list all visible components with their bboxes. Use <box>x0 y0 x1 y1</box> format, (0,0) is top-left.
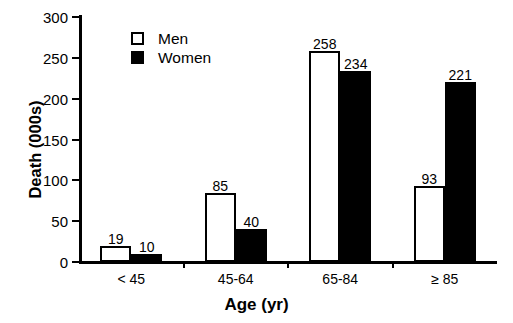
y-tick-mark <box>72 98 79 100</box>
bar-value-label: 93 <box>421 172 437 186</box>
bar-women: 221 <box>445 82 476 262</box>
y-tick-mark <box>72 179 79 181</box>
legend-swatch-women-icon <box>131 51 144 64</box>
y-tick-label: 300 <box>43 10 68 25</box>
y-tick-label: 0 <box>60 255 68 270</box>
bar-value-label: 234 <box>344 57 367 71</box>
y-tick-mark <box>72 139 79 141</box>
y-tick-label: 100 <box>43 173 68 188</box>
y-tick-label: 50 <box>51 214 68 229</box>
y-tick-mark <box>72 261 79 263</box>
x-tick-label: < 45 <box>117 271 145 287</box>
bar-men: 19 <box>100 246 131 262</box>
y-tick-label: 250 <box>43 50 68 65</box>
bar-chart-figure: Death (000s) 0501001502002503001910< 458… <box>0 0 513 323</box>
x-tick-mark <box>287 262 289 268</box>
bar-value-label: 10 <box>139 240 155 254</box>
legend-label-women: Women <box>158 50 211 66</box>
bar-men: 85 <box>205 193 236 262</box>
x-axis-title: Age (yr) <box>0 295 513 315</box>
bar-women: 40 <box>236 229 267 262</box>
bar-men: 258 <box>309 51 340 262</box>
bar-women: 234 <box>340 71 371 262</box>
x-tick-mark <box>183 262 185 268</box>
legend-item-women: Women <box>131 48 211 67</box>
y-axis-title: Death (000s) <box>26 65 45 235</box>
y-tick-mark <box>72 220 79 222</box>
bar-value-label: 221 <box>449 68 472 82</box>
legend: Men Women <box>131 29 211 67</box>
x-tick-label: 45-64 <box>218 271 254 287</box>
legend-item-men: Men <box>131 29 211 48</box>
legend-label-men: Men <box>158 31 188 47</box>
y-tick-label: 200 <box>43 91 68 106</box>
bar-men: 93 <box>414 186 445 262</box>
x-tick-mark <box>392 262 394 268</box>
bar-women: 10 <box>131 254 162 262</box>
bar-value-label: 40 <box>243 215 259 229</box>
y-tick-label: 150 <box>43 132 68 147</box>
x-tick-label: ≥ 85 <box>431 271 458 287</box>
y-tick-mark <box>72 57 79 59</box>
x-tick-label: 65-84 <box>322 271 358 287</box>
bar-value-label: 258 <box>313 37 336 51</box>
bar-value-label: 19 <box>108 232 124 246</box>
y-tick-mark <box>72 16 79 18</box>
bar-value-label: 85 <box>212 179 228 193</box>
legend-swatch-men-icon <box>131 32 144 45</box>
